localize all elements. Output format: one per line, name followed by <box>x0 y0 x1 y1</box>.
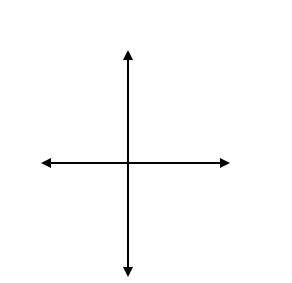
axes <box>46 55 225 272</box>
inequality-graph <box>0 0 292 283</box>
